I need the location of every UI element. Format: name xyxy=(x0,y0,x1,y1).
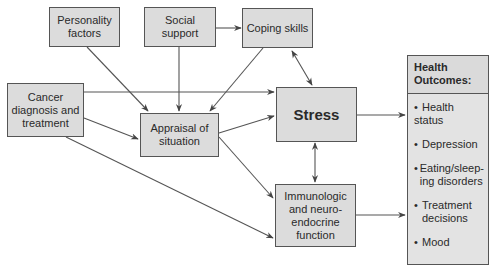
node-appraisal: Appraisal of situation xyxy=(140,113,219,157)
outcome-item: •Mood xyxy=(414,236,484,249)
node-personality-factors: Personality factors xyxy=(49,7,120,47)
node-immunologic: Immunologic and neuro-endocrine function xyxy=(275,184,356,247)
bullet-icon: • xyxy=(414,101,422,114)
edge-coping-to-appraisal xyxy=(210,48,263,111)
node-stress: Stress xyxy=(276,87,357,142)
health-outcomes-title: Health Outcomes: xyxy=(408,56,488,94)
node-cancer-label: Cancer diagnosis and treatment xyxy=(10,91,81,130)
node-personality-label: Personality factors xyxy=(52,14,117,40)
edge-coping-stress-bidirectional xyxy=(292,51,312,85)
health-outcomes-box: Health Outcomes: •Health status •Depress… xyxy=(407,55,489,265)
edge-appraisal-to-stress xyxy=(219,116,274,133)
bullet-icon: • xyxy=(414,199,422,225)
bullet-icon: • xyxy=(414,236,422,249)
health-outcomes-list: •Health status •Depression •Eating/sleep… xyxy=(408,94,488,249)
edge-personality-to-appraisal xyxy=(87,47,148,111)
node-coping-skills: Coping skills xyxy=(242,8,313,48)
node-social-label: Social support xyxy=(147,14,213,40)
node-stress-label: Stress xyxy=(294,108,340,121)
node-appraisal-label: Appraisal of situation xyxy=(143,122,216,148)
node-cancer-diagnosis: Cancer diagnosis and treatment xyxy=(7,83,84,137)
edge-cancer-to-appraisal xyxy=(84,118,138,139)
node-immuno-label: Immunologic and neuro-endocrine function xyxy=(278,190,353,242)
outcome-item: •Treatment decisions xyxy=(414,199,484,225)
outcome-item: •Depression xyxy=(414,138,484,151)
edge-appraisal-to-immuno xyxy=(219,137,273,198)
bullet-icon: • xyxy=(414,138,422,151)
outcome-item: •Health status xyxy=(414,101,484,127)
outcome-item: •Eating/sleep-ing disorders xyxy=(414,162,484,188)
node-social-support: Social support xyxy=(144,7,216,47)
node-coping-label: Coping skills xyxy=(247,22,309,35)
